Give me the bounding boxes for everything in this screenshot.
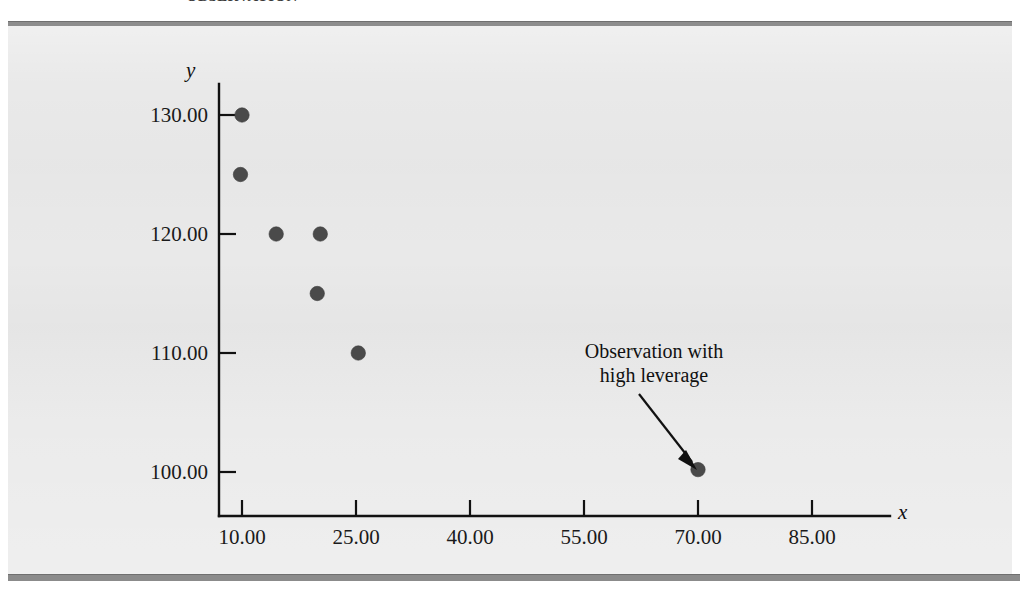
data-point <box>313 227 327 241</box>
x-tick-label-25.00: 25.00 <box>332 525 379 550</box>
bottom-rule <box>8 574 1020 581</box>
scatter-chart <box>0 0 1032 592</box>
y-axis-title: y <box>186 58 195 83</box>
annotation-line-1: Observation with <box>551 339 757 363</box>
data-point <box>269 227 283 241</box>
leverage-annotation: Observation with high leverage <box>551 339 757 388</box>
data-point <box>310 286 324 300</box>
y-tick-label-100.00: 100.00 <box>60 460 208 485</box>
x-tick-label-40.00: 40.00 <box>446 525 493 550</box>
y-tick-label-120.00: 120.00 <box>60 222 208 247</box>
x-tick-label-10.00: 10.00 <box>218 525 265 550</box>
data-points-group <box>233 108 705 477</box>
y-axis-ticks <box>219 115 236 472</box>
x-axis-ticks <box>242 500 812 516</box>
x-tick-label-70.00: 70.00 <box>674 525 721 550</box>
annotation-line-2: high leverage <box>551 363 757 387</box>
data-point <box>351 346 365 360</box>
figure-root: OBSERVATION 100.00110.00120.00130.00 10.… <box>0 0 1032 592</box>
data-point <box>235 108 249 122</box>
data-point <box>233 167 247 181</box>
x-axis-title: x <box>898 500 907 525</box>
y-tick-label-130.00: 130.00 <box>60 103 208 128</box>
annotation-arrow <box>639 394 697 470</box>
y-tick-label-110.00: 110.00 <box>60 341 208 366</box>
x-tick-label-85.00: 85.00 <box>788 525 835 550</box>
x-tick-label-55.00: 55.00 <box>560 525 607 550</box>
